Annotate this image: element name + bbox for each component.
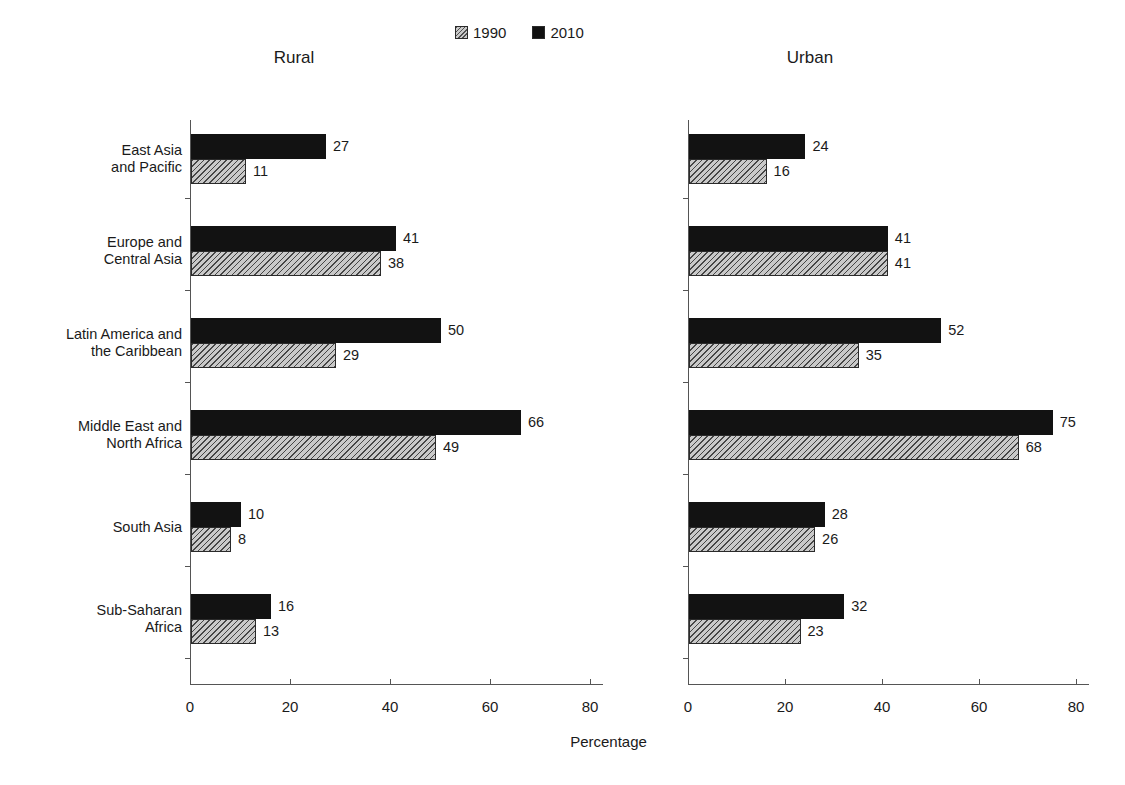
bar-value-label: 10	[248, 502, 264, 527]
bar-1990-urban	[689, 343, 859, 368]
x-axis-tick-label: 60	[482, 698, 499, 715]
x-axis-tick	[490, 679, 491, 685]
legend-label-1990: 1990	[473, 25, 506, 40]
category-label-line: Middle East and	[10, 418, 182, 435]
bar-value-label: 24	[812, 134, 828, 159]
bar-2010-rural	[191, 134, 326, 159]
bar-value-label: 66	[528, 410, 544, 435]
category-label-line: Sub-Saharan	[10, 602, 182, 619]
x-axis-title: Percentage	[0, 733, 1125, 750]
chart-legend: 1990 2010	[455, 25, 584, 40]
category-label-line: North Africa	[10, 435, 182, 452]
legend-swatch-2010-icon	[532, 26, 545, 39]
bar-2010-urban	[689, 134, 805, 159]
bar-2010-rural	[191, 410, 521, 435]
bar-value-label: 35	[866, 343, 882, 368]
bar-value-label: 27	[333, 134, 349, 159]
category-label: Europe andCentral Asia	[10, 234, 182, 268]
bar-2010-rural	[191, 502, 241, 527]
y-axis-tick	[683, 290, 688, 291]
legend-entry-1990: 1990	[455, 25, 506, 40]
category-label: Latin America andthe Caribbean	[10, 326, 182, 360]
bar-1990-urban	[689, 619, 801, 644]
bar-value-label: 75	[1060, 410, 1076, 435]
bar-1990-rural	[191, 343, 336, 368]
x-axis-tick-label: 20	[777, 698, 794, 715]
x-axis-tick	[1076, 679, 1077, 685]
chart-panel-urban: 020406080241641415235756828263223	[688, 120, 1091, 685]
panel-title-rural: Rural	[214, 48, 374, 68]
x-axis-tick-label: 60	[971, 698, 988, 715]
x-axis-tick	[190, 679, 191, 685]
bar-value-label: 28	[832, 502, 848, 527]
bar-1990-urban	[689, 435, 1019, 460]
chart-panel-rural: 02040608027114138502966491081613	[190, 120, 605, 685]
x-axis-tick	[590, 679, 591, 685]
x-axis-tick	[688, 679, 689, 685]
x-axis-tick	[882, 679, 883, 685]
legend-entry-2010: 2010	[532, 25, 583, 40]
bar-2010-urban	[689, 502, 825, 527]
bar-value-label: 8	[238, 527, 246, 552]
bar-2010-urban	[689, 594, 844, 619]
bar-value-label: 32	[851, 594, 867, 619]
bar-value-label: 16	[278, 594, 294, 619]
category-label: South Asia	[10, 519, 182, 536]
x-axis-tick	[390, 679, 391, 685]
bar-value-label: 50	[448, 318, 464, 343]
y-axis-tick	[185, 290, 190, 291]
x-axis-tick-label: 0	[186, 698, 194, 715]
category-label-line: East Asia	[10, 142, 182, 159]
legend-swatch-1990-icon	[455, 26, 468, 39]
bar-1990-rural	[191, 159, 246, 184]
bar-2010-rural	[191, 594, 271, 619]
x-axis-tick-label: 40	[382, 698, 399, 715]
y-axis-tick	[683, 658, 688, 659]
x-axis-line-rural	[190, 684, 603, 685]
bar-2010-rural	[191, 318, 441, 343]
y-axis-tick	[683, 382, 688, 383]
bar-value-label: 41	[895, 251, 911, 276]
category-label-line: the Caribbean	[10, 343, 182, 360]
category-label-line: Central Asia	[10, 251, 182, 268]
bar-1990-urban	[689, 159, 767, 184]
bar-value-label: 26	[822, 527, 838, 552]
y-axis-tick	[185, 658, 190, 659]
bar-value-label: 16	[774, 159, 790, 184]
bar-value-label: 38	[388, 251, 404, 276]
x-axis-title-text: Percentage	[570, 733, 647, 750]
bar-1990-urban	[689, 251, 888, 276]
category-label: Sub-SaharanAfrica	[10, 602, 182, 636]
bar-value-label: 52	[948, 318, 964, 343]
category-label: Middle East andNorth Africa	[10, 418, 182, 452]
category-label-line: South Asia	[10, 519, 182, 536]
bar-2010-urban	[689, 226, 888, 251]
x-axis-tick-label: 40	[874, 698, 891, 715]
y-axis-tick	[683, 566, 688, 567]
bar-value-label: 13	[263, 619, 279, 644]
bar-value-label: 41	[895, 226, 911, 251]
y-axis-tick	[185, 474, 190, 475]
x-axis-line-urban	[688, 684, 1089, 685]
bar-1990-rural	[191, 527, 231, 552]
bar-2010-urban	[689, 410, 1053, 435]
x-axis-tick	[290, 679, 291, 685]
category-label-line: Latin America and	[10, 326, 182, 343]
x-axis-tick	[785, 679, 786, 685]
y-axis-tick	[683, 198, 688, 199]
bar-value-label: 23	[808, 619, 824, 644]
category-label-line: Africa	[10, 619, 182, 636]
category-label-line: Europe and	[10, 234, 182, 251]
bar-2010-urban	[689, 318, 941, 343]
bar-value-label: 29	[343, 343, 359, 368]
bar-1990-urban	[689, 527, 815, 552]
category-label: East Asiaand Pacific	[10, 142, 182, 176]
bar-value-label: 41	[403, 226, 419, 251]
panel-title-urban: Urban	[730, 48, 890, 68]
bar-value-label: 49	[443, 435, 459, 460]
bar-1990-rural	[191, 435, 436, 460]
bar-value-label: 11	[253, 159, 268, 184]
x-axis-tick-label: 20	[282, 698, 299, 715]
y-axis-tick	[185, 566, 190, 567]
x-axis-tick-label: 80	[1068, 698, 1085, 715]
